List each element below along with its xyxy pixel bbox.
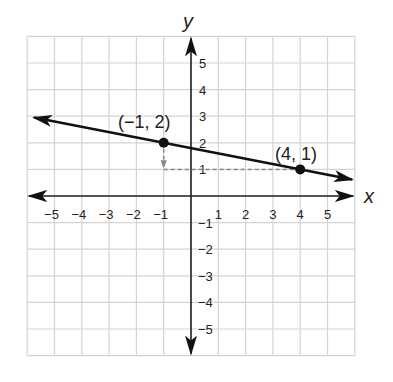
y-tick-label: −5: [198, 322, 213, 337]
data-point: [295, 164, 305, 174]
y-tick-label: 3: [199, 109, 206, 124]
x-tick-label: 1: [215, 207, 222, 222]
x-tick-label: 3: [269, 207, 276, 222]
point-label-b: (4, 1): [275, 144, 317, 164]
x-tick-label: 2: [242, 207, 249, 222]
data-point: [159, 138, 169, 148]
axes: [29, 38, 353, 353]
x-tick-label: 5: [324, 207, 331, 222]
x-tick-label: −4: [71, 207, 86, 222]
point-label-a: (−1, 2): [118, 112, 171, 132]
y-tick-label: −3: [198, 269, 213, 284]
y-tick-label: −2: [198, 242, 213, 257]
x-tick-label: −3: [99, 207, 114, 222]
x-tick-label: −2: [126, 207, 141, 222]
x-tick-label: −1: [153, 207, 168, 222]
y-tick-label: −4: [198, 295, 213, 310]
y-tick-label: 4: [199, 83, 206, 98]
coordinate-plane: −5−4−3−2−11234554321−1−2−3−4−5 x y (−1, …: [0, 0, 393, 382]
y-axis-label: y: [181, 10, 194, 32]
y-tick-label: 2: [199, 136, 206, 151]
y-tick-label: 5: [199, 56, 206, 71]
x-axis-label: x: [363, 185, 375, 207]
y-tick-label: −1: [198, 216, 213, 231]
x-tick-label: −5: [44, 207, 59, 222]
x-tick-label: 4: [297, 207, 304, 222]
